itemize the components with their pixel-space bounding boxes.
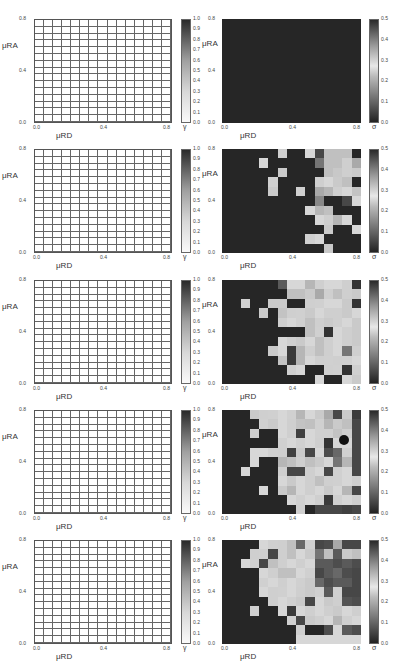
heatmap-cell [268, 47, 277, 56]
heatmap-cell [250, 467, 259, 476]
heatmap-cell [315, 196, 324, 205]
heatmap-cell [324, 85, 333, 94]
heatmap-cell [296, 57, 305, 66]
heatmap-cell [352, 19, 361, 28]
heatmap-cell [259, 606, 268, 615]
heatmap-cell [333, 66, 342, 75]
heatmap-cell [259, 559, 268, 568]
heatmap-cell [333, 47, 342, 56]
heatmap-cell [287, 365, 296, 374]
heatmap-cell [296, 289, 305, 298]
heatmap-cell [324, 57, 333, 66]
heatmap-cell [278, 244, 287, 253]
heatmap-cell [250, 587, 259, 596]
heatmap-cell [259, 299, 268, 308]
heatmap-cell [315, 244, 324, 253]
colorbar-tick-label: 0.5 [381, 146, 388, 151]
heatmap-cell [342, 177, 351, 186]
heatmap-cell [352, 289, 361, 298]
heatmap-cell [333, 318, 342, 327]
heatmap-cell [268, 299, 277, 308]
colorbar-label: σ [372, 253, 376, 260]
heatmap-cell [278, 549, 287, 558]
heatmap-cell [259, 158, 268, 167]
x-tick-label: 0.4 [289, 646, 296, 651]
heatmap-cell [268, 549, 277, 558]
heatmap-cell [241, 467, 250, 476]
heatmap-cell [231, 587, 240, 596]
heatmap-cell [278, 495, 287, 504]
heatmap-cell [231, 196, 240, 205]
heatmap-cell [287, 38, 296, 47]
heatmap-cell [324, 318, 333, 327]
heatmap-cell [241, 549, 250, 558]
heatmap-cell [324, 467, 333, 476]
heatmap-cell [287, 104, 296, 113]
heatmap-cell [305, 289, 314, 298]
y-axis-label: μRA [202, 560, 218, 569]
heatmap-cell [268, 177, 277, 186]
heatmap-cell [305, 540, 314, 549]
heatmap-cell [259, 206, 268, 215]
heatmap-cell [268, 448, 277, 457]
heatmap-cell [305, 215, 314, 224]
heatmap-cell [241, 606, 250, 615]
heatmap-cell [315, 606, 324, 615]
heatmap-cell [296, 38, 305, 47]
heatmap-cell [259, 327, 268, 336]
heatmap-cell [296, 225, 305, 234]
heatmap-cell [222, 38, 231, 47]
heatmap-cell [231, 375, 240, 384]
heatmap-cell [315, 206, 324, 215]
heatmap-cell [324, 495, 333, 504]
heatmap-cell [305, 327, 314, 336]
heatmap-cell [222, 244, 231, 253]
heatmap-cell [241, 419, 250, 428]
sigma-panel: 0.00.40.80.00.40.8μRAμRD0.00.10.20.30.40… [0, 280, 405, 410]
heatmap-cell [342, 104, 351, 113]
heatmap-cell [268, 356, 277, 365]
heatmap-cell [352, 346, 361, 355]
heatmap-cell [324, 448, 333, 457]
heatmap-cell [259, 438, 268, 447]
heatmap-cell [241, 587, 250, 596]
heatmap-cell [259, 365, 268, 374]
heatmap-cell [222, 149, 231, 158]
heatmap-cell [250, 457, 259, 466]
heatmap-cell [231, 95, 240, 104]
heatmap-cell [333, 467, 342, 476]
heatmap-cell [315, 375, 324, 384]
x-tick-label: 0.8 [353, 646, 360, 651]
heatmap-cell [305, 356, 314, 365]
heatmap-cell [259, 495, 268, 504]
heatmap-cell [352, 597, 361, 606]
heatmap-cell [342, 540, 351, 549]
heatmap-cell [241, 365, 250, 374]
heatmap-cell [342, 28, 351, 37]
heatmap-cell [333, 419, 342, 428]
heatmap-cell [268, 28, 277, 37]
heatmap-cell [296, 616, 305, 625]
heatmap-cell [333, 587, 342, 596]
heatmap-cell [268, 318, 277, 327]
heatmap-cell [222, 578, 231, 587]
heatmap-cell [333, 346, 342, 355]
heatmap-cell [315, 104, 324, 113]
heatmap-cell [278, 225, 287, 234]
heatmap-cell [250, 635, 259, 644]
colorbar-tick-label: 0.5 [381, 407, 388, 412]
heatmap-cell [231, 168, 240, 177]
heatmap-cell [287, 476, 296, 485]
heatmap-cell [222, 289, 231, 298]
y-tick-label: 0.8 [208, 277, 215, 282]
heatmap-cell [241, 356, 250, 365]
heatmap-cell [222, 76, 231, 85]
heatmap-cell [268, 365, 277, 374]
heatmap-cell [259, 95, 268, 104]
y-tick-label: 0.0 [208, 120, 215, 125]
heatmap-cell [222, 66, 231, 75]
heatmap-cell [315, 85, 324, 94]
heatmap-cell [231, 476, 240, 485]
x-tick-label: 0.4 [289, 125, 296, 130]
heatmap-cell [222, 47, 231, 56]
